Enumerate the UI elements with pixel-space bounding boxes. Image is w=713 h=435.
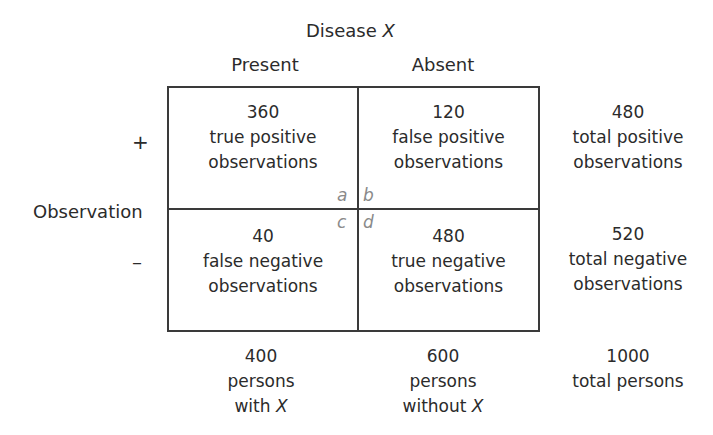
cell-b-false-positive: 120 false positive observations [359,100,538,175]
col-total-present: 400 persons with X [196,344,326,419]
title-variable: X [383,20,395,41]
col-total-absent-prefix: without [403,396,472,416]
col-total-present-line1: persons [196,369,326,394]
col-total-absent: 600 persons without X [378,344,508,419]
title-text: Disease [306,20,383,41]
cell-d-line1: true negative [359,249,538,274]
col-total-absent-line2: without X [378,394,508,419]
row-sign-negative: – [132,250,142,274]
column-header-present: Present [200,54,330,75]
row-total-positive-count: 480 [548,100,708,125]
row-total-negative-line1: total negative [548,247,708,272]
row-total-positive-line2: observations [548,150,708,175]
grand-total-line1: total persons [548,369,708,394]
col-total-absent-count: 600 [378,344,508,369]
row-total-negative-line2: observations [548,272,708,297]
contingency-table: 360 true positive observations a 120 fal… [167,86,540,332]
col-total-present-count: 400 [196,344,326,369]
grand-total-count: 1000 [548,344,708,369]
row-total-negative-count: 520 [548,222,708,247]
row-total-positive-line1: total positive [548,125,708,150]
cell-c-line1: false negative [169,249,357,274]
col-total-present-line2: with X [196,394,326,419]
cell-c-line2: observations [169,274,357,299]
cell-a-line1: true positive [169,125,357,150]
col-total-present-var: X [276,396,288,416]
cell-b-line1: false positive [359,125,538,150]
diagram-title: Disease X [306,20,395,41]
cell-a-count: 360 [169,100,357,125]
cell-letter-a: a [337,185,347,205]
grand-total: 1000 total persons [548,344,708,394]
cell-c-false-negative: 40 false negative observations [169,224,357,299]
cell-d-count: 480 [359,224,538,249]
row-sign-positive: + [132,130,149,154]
cell-a-line2: observations [169,150,357,175]
col-total-absent-line1: persons [378,369,508,394]
cell-c-count: 40 [169,224,357,249]
cell-letter-b: b [363,185,374,205]
cell-b-line2: observations [359,150,538,175]
column-header-absent: Absent [378,54,508,75]
col-total-present-prefix: with [234,396,275,416]
col-total-absent-var: X [472,396,484,416]
horizontal-divider [169,208,538,210]
cell-d-true-negative: 480 true negative observations [359,224,538,299]
row-axis-label: Observation [33,201,143,222]
cell-a-true-positive: 360 true positive observations [169,100,357,175]
cell-d-line2: observations [359,274,538,299]
cell-b-count: 120 [359,100,538,125]
row-total-positive: 480 total positive observations [548,100,708,175]
row-total-negative: 520 total negative observations [548,222,708,297]
